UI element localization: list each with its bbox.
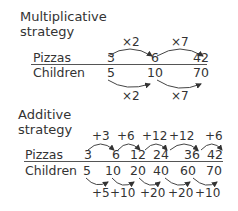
add-pizzas-value-4: 24: [153, 147, 169, 162]
strategy-diagram: Multiplicative strategy ×2 ×7 Pizzas Chi…: [0, 0, 238, 211]
add-top-op-1: +3: [92, 129, 110, 143]
multiplicative-section: Multiplicative strategy ×2 ×7 Pizzas Chi…: [20, 9, 209, 103]
additive-title-line1: Additive: [18, 107, 71, 122]
mult-pizzas-value-1: 3: [107, 50, 115, 65]
add-bottom-arrow-3: [139, 178, 160, 185]
add-children-value-3: 20: [130, 163, 146, 178]
add-bottom-arrow-1: [86, 178, 108, 185]
add-top-op-5: +6: [205, 129, 223, 143]
add-bottom-op-3: +20: [140, 186, 165, 200]
mult-pizzas-label: Pizzas: [33, 50, 71, 65]
mult-children-value-1: 5: [107, 65, 115, 80]
mult-bottom-arrow-1: [108, 80, 150, 87]
add-pizzas-value-6: 42: [207, 147, 223, 162]
mult-bottom-op-1: ×2: [122, 89, 140, 103]
add-top-op-2: +6: [117, 129, 135, 143]
multiplicative-title-line1: Multiplicative: [20, 9, 107, 24]
add-children-value-1: 5: [83, 163, 91, 178]
mult-children-value-2: 10: [147, 65, 163, 80]
mult-top-op-1: ×2: [122, 35, 140, 49]
add-pizzas-value-1: 3: [84, 147, 92, 162]
mult-pizzas-value-3: 42: [193, 50, 209, 65]
mult-children-value-3: 70: [193, 65, 209, 80]
additive-title-line2: strategy: [18, 122, 73, 137]
add-top-op-3: +12: [142, 129, 167, 143]
add-top-op-4: +12: [169, 129, 194, 143]
mult-pizzas-value-2: 6: [151, 50, 159, 65]
add-bottom-arrow-4: [165, 178, 190, 185]
add-pizzas-value-5: 36: [184, 147, 200, 162]
additive-section: Additive strategy +3 +6 +12 +12 +6 Pizza…: [18, 107, 223, 200]
add-bottom-op-1: +5: [92, 186, 110, 200]
add-children-value-2: 10: [105, 163, 121, 178]
multiplicative-title-line2: strategy: [20, 24, 75, 39]
add-pizzas-value-3: 12: [130, 147, 146, 162]
add-bottom-arrow-2: [112, 178, 134, 185]
add-bottom-op-5: +10: [195, 186, 220, 200]
add-pizzas-label: Pizzas: [25, 147, 63, 162]
mult-bottom-op-2: ×7: [171, 89, 189, 103]
add-bottom-op-2: +10: [110, 186, 135, 200]
add-pizzas-value-2: 6: [112, 147, 120, 162]
add-bottom-arrow-5: [193, 178, 217, 185]
add-children-value-4: 40: [153, 163, 169, 178]
add-children-label: Children: [25, 163, 77, 178]
mult-top-op-2: ×7: [171, 35, 189, 49]
add-children-value-5: 60: [180, 163, 196, 178]
add-children-value-6: 70: [206, 163, 222, 178]
mult-children-label: Children: [33, 65, 85, 80]
mult-bottom-arrow-2: [157, 80, 201, 88]
add-bottom-op-4: +20: [168, 186, 193, 200]
